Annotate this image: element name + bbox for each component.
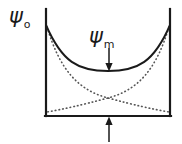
psi-m-subscript: m (104, 38, 115, 51)
psi-zero-label: ψo (9, 6, 30, 27)
psi-m-symbol: ψ (89, 24, 103, 48)
up-arrow-icon (105, 117, 112, 143)
psi-m-label: ψm (89, 26, 114, 47)
figure-container: ψo ψm (0, 0, 182, 144)
psi-zero-subscript: o (24, 18, 31, 31)
down-arrow-icon (105, 48, 112, 72)
psi-zero-symbol: ψ (9, 4, 23, 28)
